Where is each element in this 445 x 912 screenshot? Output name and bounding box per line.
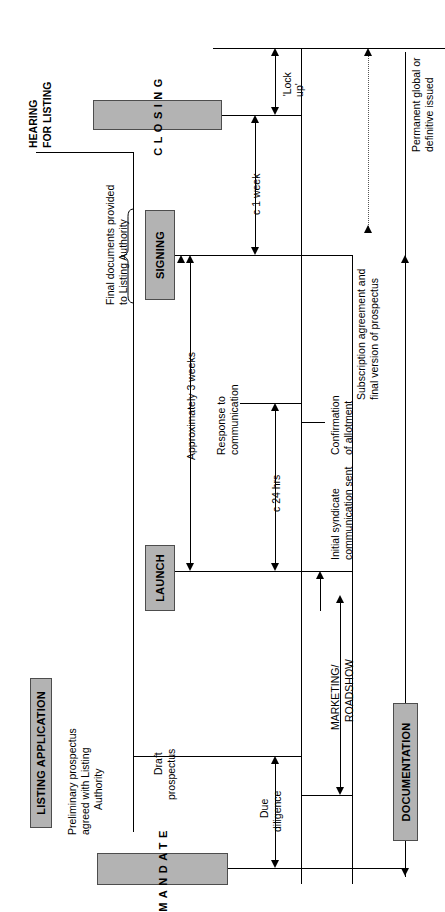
stage-box-launch[interactable]: LAUNCH (145, 545, 175, 611)
annotation-initial-syndicate-line1: Initial syndicate (329, 488, 342, 560)
rail-signing (175, 255, 352, 256)
duration-label-marketing-line2: ROADSHOW (343, 659, 356, 722)
milestone-label-hearing-line1: HEARING (27, 100, 40, 148)
duration-label-lock-up: 'Lockup' (268, 72, 318, 108)
signing-inbound-arrow (177, 255, 185, 263)
duration-due-diligence-arrow-down (271, 860, 279, 868)
duration-c1week-arrow-down (251, 247, 259, 255)
permanent-global-arrow-top (364, 48, 372, 56)
milestone-label-hearing-line2: FOR LISTING (41, 82, 54, 149)
stage-box-mandate[interactable]: MANDATE (97, 853, 228, 885)
stage-label-launch: LAUNCH (154, 554, 166, 602)
annotation-confirmation-line1: Confirmation (329, 395, 342, 455)
axis-secondary-spine (301, 48, 302, 884)
workstream-box-listing-application[interactable]: LISTING APPLICATION (30, 678, 52, 828)
annotation-preliminary-prospectus-line1: Preliminary prospectus (66, 728, 79, 835)
rail-closing (222, 115, 302, 116)
stage-box-closing[interactable]: CLOSING (93, 100, 222, 130)
workstream-label-documentation: DOCUMENTATION (400, 723, 412, 822)
annotation-subscription-line2: final version of prospectus (368, 278, 381, 400)
annotation-confirmation-line2: of allotment (342, 401, 355, 455)
documentation-arrow-down (401, 868, 409, 876)
duration-lockup-arrow-up (271, 48, 279, 56)
duration-3weeks-arrow-up (186, 255, 194, 263)
duration-c24hrs-arrow-up (271, 403, 279, 411)
permanent-global-arrow-bottom (364, 225, 372, 233)
rail-marketing-start (301, 795, 352, 796)
subscription-arrow-up (401, 255, 409, 263)
annotation-permanent-global-line1: Permanent global or (410, 57, 423, 152)
workstream-box-documentation[interactable]: DOCUMENTATION (393, 703, 418, 841)
duration-label-c-1-week: c 1 week (250, 174, 263, 215)
duration-3weeks-arrow-down (186, 563, 194, 571)
duration-marketing-arrow-up (336, 595, 344, 603)
rail-launch (175, 571, 352, 572)
duration-label-approximately-3-weeks: Approximately 3 weeks (185, 352, 198, 460)
axis-tertiary-spine (352, 255, 353, 884)
stage-label-closing: CLOSING (152, 74, 164, 156)
rail-mandate (228, 868, 405, 869)
annotation-permanent-global-line2: definitive issued (423, 77, 436, 152)
duration-c1week-arrow-up (251, 115, 259, 123)
duration-marketing-arrow-down (336, 787, 344, 795)
stage-label-signing: SIGNING (154, 231, 166, 279)
axis-documentation-spine (405, 52, 406, 703)
annotation-preliminary-prospectus-line3: Authority (92, 769, 105, 810)
duration-label-due-diligence-line1: Due (258, 799, 271, 818)
rail-post-closing (213, 48, 445, 49)
duration-due-diligence-arrow-up (271, 756, 279, 764)
workstream-label-listing-application: LISTING APPLICATION (35, 691, 47, 815)
annotation-response-line1: Response to (215, 396, 228, 455)
annotation-final-documents-line2: to Listing Authority (117, 219, 130, 305)
initial-syndicate-line (320, 575, 321, 611)
annotation-response-line2: communication (228, 384, 241, 455)
annotation-draft-prospectus-line1: Draft (152, 752, 165, 775)
annotation-initial-syndicate-line2: communication sent (342, 467, 355, 560)
permanent-global-dotted-line (368, 56, 369, 231)
stage-label-mandate: MANDATE (157, 826, 169, 912)
rail-confirmation-allotment (301, 422, 325, 423)
duration-c24hrs-arrow-down (271, 563, 279, 571)
duration-label-marketing-line1: MARKETING/ (329, 665, 342, 730)
duration-label-c-24-hrs: c 24 hrs (270, 475, 283, 512)
annotation-subscription-line1: Subscription agreement and (355, 269, 368, 400)
duration-label-due-diligence-line2: diligence (271, 791, 284, 832)
annotation-draft-prospectus-line2: prospectus (165, 749, 178, 800)
duration-lockup-arrow-down (271, 107, 279, 115)
initial-syndicate-arrow (316, 571, 324, 579)
annotation-preliminary-prospectus-line2: agreed with Listing (79, 747, 92, 835)
stage-box-signing[interactable]: SIGNING (145, 210, 175, 300)
annotation-final-documents-line1: Final documents provided (104, 185, 117, 305)
milestone-hearing-tick (36, 152, 134, 153)
